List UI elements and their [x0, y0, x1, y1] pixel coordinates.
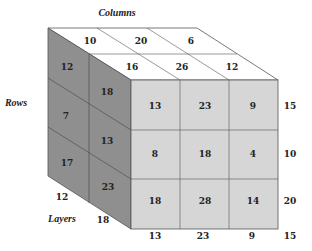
top-front-cell: 26 — [176, 62, 189, 72]
front-cell: 8 — [152, 149, 158, 159]
front-cell: 18 — [149, 196, 162, 206]
front-cell: 28 — [199, 196, 212, 206]
layer-total: 12 — [56, 192, 69, 202]
front-cell: 23 — [199, 101, 212, 111]
top-back-cell: 6 — [188, 36, 194, 46]
columns-label: Columns — [98, 7, 135, 18]
rows-label: Rows — [4, 97, 27, 108]
column-total: 15 — [284, 231, 297, 241]
front-cell: 18 — [199, 149, 212, 159]
top-front-cell: 12 — [226, 62, 239, 72]
row-total: 20 — [284, 196, 297, 206]
data-cube-diagram: Columns Rows Layers 10 20 6 16 26 12 12 … — [0, 0, 312, 251]
column-total: 23 — [197, 231, 210, 241]
column-total: 13 — [149, 231, 162, 241]
front-cell: 13 — [149, 101, 162, 111]
front-cell: 14 — [247, 196, 260, 206]
front-cell: 4 — [250, 149, 256, 159]
side-front-cell: 23 — [102, 182, 115, 192]
side-front-cell: 18 — [101, 87, 114, 97]
column-total: 9 — [249, 231, 255, 241]
layer-total: 18 — [97, 215, 110, 225]
side-back-cell: 17 — [61, 158, 74, 168]
row-total: 15 — [284, 101, 297, 111]
side-back-cell: 7 — [63, 111, 69, 121]
layers-label: Layers — [47, 213, 76, 224]
top-back-cell: 20 — [135, 36, 148, 46]
side-front-cell: 13 — [101, 136, 114, 146]
side-back-cell: 12 — [61, 62, 74, 72]
front-cell: 9 — [250, 101, 256, 111]
top-front-cell: 16 — [126, 62, 139, 72]
top-back-cell: 10 — [84, 36, 97, 46]
row-total: 10 — [284, 149, 297, 159]
